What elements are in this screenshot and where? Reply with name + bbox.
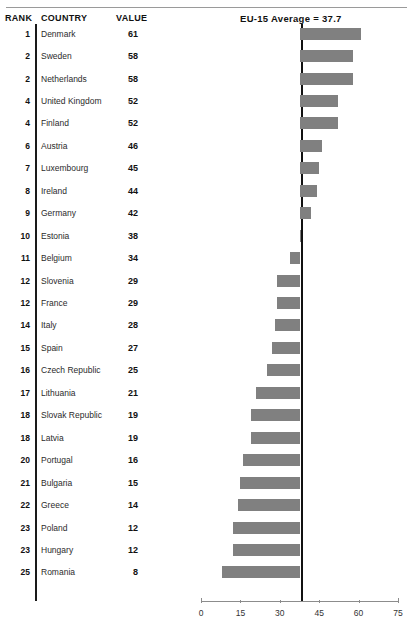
cell-country: Estonia: [41, 225, 69, 247]
table-row: 1Denmark61: [0, 23, 413, 45]
cell-country: Austria: [41, 135, 67, 157]
x-axis-tick-label: 15: [236, 608, 245, 618]
x-axis-tick: [319, 600, 320, 603]
table-row: 18Slovak Republic19: [0, 404, 413, 426]
table-row: 4Finland52: [0, 112, 413, 134]
cell-country: Denmark: [41, 23, 75, 45]
cell-country: Ireland: [41, 180, 67, 202]
cell-rank: 10: [0, 225, 30, 247]
cell-rank: 11: [0, 247, 30, 269]
column-header-rank: RANK: [5, 13, 32, 23]
x-axis-tick-label: 60: [354, 608, 363, 618]
table-row: 12France29: [0, 292, 413, 314]
x-axis-tick: [359, 600, 360, 603]
column-header-country: COUNTRY: [41, 13, 87, 23]
cell-value: 15: [116, 472, 138, 494]
table-row: 2Netherlands58: [0, 68, 413, 90]
table-row: 2Sweden58: [0, 45, 413, 67]
cell-value: 25: [116, 359, 138, 381]
cell-value: 19: [116, 427, 138, 449]
table-row: 6Austria46: [0, 135, 413, 157]
cell-rank: 15: [0, 337, 30, 359]
table-row: 11Belgium34: [0, 247, 413, 269]
cell-rank: 12: [0, 270, 30, 292]
cell-rank: 21: [0, 472, 30, 494]
cell-country: Netherlands: [41, 68, 87, 90]
top-divider: [6, 7, 407, 8]
x-axis-tick: [240, 600, 241, 603]
cell-value: 42: [116, 202, 138, 224]
cell-value: 45: [116, 157, 138, 179]
column-header-value: VALUE: [116, 13, 147, 23]
x-axis-tick: [201, 600, 202, 603]
cell-country: Italy: [41, 314, 57, 336]
cell-value: 46: [116, 135, 138, 157]
cell-rank: 12: [0, 292, 30, 314]
table-row: 15Spain27: [0, 337, 413, 359]
table-row: 20Portugal16: [0, 449, 413, 471]
cell-country: Hungary: [41, 539, 73, 561]
cell-rank: 16: [0, 359, 30, 381]
cell-country: Slovak Republic: [41, 404, 102, 426]
cell-country: Bulgaria: [41, 472, 72, 494]
cell-rank: 4: [0, 112, 30, 134]
table-row: 16Czech Republic25: [0, 359, 413, 381]
cell-country: Czech Republic: [41, 359, 101, 381]
table-row: 14Italy28: [0, 314, 413, 336]
cell-rank: 18: [0, 404, 30, 426]
x-axis-tick-label: 0: [199, 608, 204, 618]
x-axis-tick-label: 45: [314, 608, 323, 618]
x-axis-tick-label: 75: [393, 608, 402, 618]
table-row: 23Poland12: [0, 517, 413, 539]
cell-value: 61: [116, 23, 138, 45]
cell-value: 29: [116, 292, 138, 314]
cell-rank: 20: [0, 449, 30, 471]
cell-value: 27: [116, 337, 138, 359]
cell-country: Lithuania: [41, 382, 76, 404]
cell-rank: 6: [0, 135, 30, 157]
cell-rank: 2: [0, 68, 30, 90]
cell-rank: 4: [0, 90, 30, 112]
cell-rank: 1: [0, 23, 30, 45]
cell-value: 52: [116, 90, 138, 112]
cell-value: 58: [116, 68, 138, 90]
cell-rank: 17: [0, 382, 30, 404]
x-axis-tick: [280, 600, 281, 603]
cell-country: Germany: [41, 202, 76, 224]
cell-rank: 22: [0, 494, 30, 516]
cell-value: 38: [116, 225, 138, 247]
cell-value: 12: [116, 517, 138, 539]
table-row: 21Bulgaria15: [0, 472, 413, 494]
cell-value: 8: [116, 561, 138, 583]
cell-country: France: [41, 292, 67, 314]
cell-value: 16: [116, 449, 138, 471]
x-axis-tick-label: 30: [275, 608, 284, 618]
cell-country: Luxembourg: [41, 157, 88, 179]
table-row: 23Hungary12: [0, 539, 413, 561]
cell-value: 19: [116, 404, 138, 426]
table-row: 22Greece14: [0, 494, 413, 516]
table-row: 25Romania8: [0, 561, 413, 583]
cell-country: Greece: [41, 494, 69, 516]
cell-rank: 25: [0, 561, 30, 583]
cell-country: Romania: [41, 561, 75, 583]
table-row: 9Germany42: [0, 202, 413, 224]
cell-rank: 23: [0, 539, 30, 561]
cell-value: 28: [116, 314, 138, 336]
cell-country: Poland: [41, 517, 67, 539]
cell-country: Belgium: [41, 247, 72, 269]
cell-value: 58: [116, 45, 138, 67]
table-row: 12Slovenia29: [0, 270, 413, 292]
cell-value: 34: [116, 247, 138, 269]
cell-rank: 9: [0, 202, 30, 224]
cell-country: Sweden: [41, 45, 72, 67]
cell-rank: 14: [0, 314, 30, 336]
cell-country: Latvia: [41, 427, 64, 449]
cell-rank: 8: [0, 180, 30, 202]
table-row: 4United Kingdom52: [0, 90, 413, 112]
cell-country: Slovenia: [41, 270, 74, 292]
x-axis-tick: [398, 600, 399, 603]
cell-value: 21: [116, 382, 138, 404]
cell-country: United Kingdom: [41, 90, 101, 112]
cell-rank: 18: [0, 427, 30, 449]
